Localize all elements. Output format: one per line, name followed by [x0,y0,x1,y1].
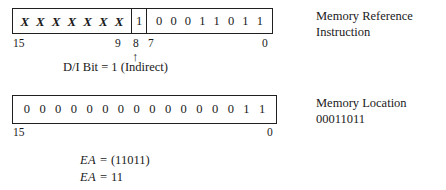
memory-bit-index-label-0: 0 [267,127,273,139]
memory-location-word-box: 0 0 0 0 0 0 0 0 0 0 0 0 0 0 1 1 [12,95,277,124]
memory-location-annotation: Memory Location 00011011 [316,95,407,127]
ea-value-parenthesized: (11011) [111,153,150,167]
opcode-bit: X [115,15,124,28]
instruction-annotation-line-2: Instruction [316,24,413,40]
direct-indirect-bit-field: 1 [131,9,146,33]
memory-bit: 0 [149,103,155,116]
memory-bit: 1 [243,103,249,116]
address-bit: 1 [257,15,263,28]
ea-equals-sign: = [96,170,111,184]
memory-bit: 0 [86,103,92,116]
effective-address-line-2: EA=11 [80,169,150,186]
di-bit: 1 [136,15,142,28]
instruction-annotation-line-1: Memory Reference [316,8,413,24]
memory-bit: 0 [39,103,45,116]
opcode-bit: X [52,15,61,28]
ea-symbol: EA [80,170,96,184]
memory-annotation-line-1: Memory Location [316,95,407,111]
opcode-bit: X [68,15,77,28]
opcode-field: X X X X X X X [13,9,131,33]
opcode-bit: X [36,15,45,28]
instruction-annotation: Memory Reference Instruction [316,8,413,40]
ea-symbol: EA [80,153,96,167]
memory-bit: 0 [102,103,108,116]
di-bit-caption: D/I Bit = 1 (Indirect) [63,61,168,75]
memory-bit: 0 [212,103,218,116]
bit-index-label-7: 7 [148,38,154,50]
bit-index-label-8: 8 [133,38,139,50]
memory-word-field: 0 0 0 0 0 0 0 0 0 0 0 0 0 0 1 1 [13,96,276,123]
effective-address-line-1: EA=(11011) [80,152,150,169]
memory-bit: 1 [259,103,265,116]
memory-bit: 0 [196,103,202,116]
address-bit: 1 [199,15,205,28]
bit-index-label-9: 9 [115,38,121,50]
memory-bit: 0 [71,103,77,116]
memory-bit: 0 [228,103,234,116]
memory-bit: 0 [55,103,61,116]
effective-address-result: EA=(11011) EA=11 [80,152,150,186]
memory-bit: 0 [24,103,30,116]
memory-bit: 0 [165,103,171,116]
ea-value: 11 [111,170,123,184]
address-bit: 0 [156,15,162,28]
address-bit: 1 [214,15,220,28]
ea-equals-sign: = [96,153,111,167]
memory-bit: 0 [134,103,140,116]
memory-annotation-line-2: 00011011 [316,111,407,127]
bit-index-label-0: 0 [262,38,268,50]
memory-bit: 0 [181,103,187,116]
memory-bit: 0 [118,103,124,116]
address-field: 0 0 0 1 1 0 1 1 [146,9,272,33]
indirect-addressing-figure: X X X X X X X 1 0 0 0 1 1 0 1 1 15 9 8 7… [0,0,446,190]
address-bit: 1 [242,15,248,28]
address-bit: 0 [228,15,234,28]
address-bit: 0 [170,15,176,28]
memory-bit-index-label-15: 15 [13,127,25,139]
opcode-bit: X [20,15,29,28]
opcode-bit: X [99,15,108,28]
address-bit: 0 [185,15,191,28]
bit-index-label-15: 15 [13,38,25,50]
instruction-word-box: X X X X X X X 1 0 0 0 1 1 0 1 1 [12,8,273,34]
opcode-bit: X [83,15,92,28]
